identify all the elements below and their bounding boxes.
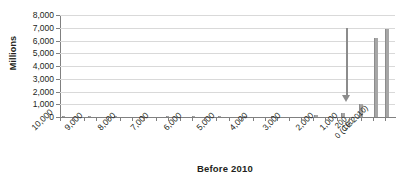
x-axis-tick-mark	[96, 118, 97, 121]
y-axis-tick-mark	[56, 66, 60, 67]
x-axis-tick-mark	[60, 118, 61, 121]
x-axis-tick-mark	[277, 118, 278, 121]
y-axis-tick-mark	[56, 79, 60, 80]
x-axis-tick-mark	[253, 118, 254, 121]
x-axis-tick-mark	[373, 118, 374, 121]
x-axis-tick-mark	[132, 118, 133, 121]
y-axis-tick-mark	[56, 15, 60, 16]
bar-chart: Millions 01,0002,0003,0004,0005,0006,000…	[0, 0, 402, 185]
x-axis-tick-mark	[216, 118, 217, 121]
x-axis-tick-label: 9,000	[63, 111, 84, 132]
x-axis-tick-mark	[361, 118, 362, 121]
x-axis-tick-mark	[156, 118, 157, 121]
x-axis-tick-mark	[168, 118, 169, 121]
chart-title: Before 2010	[0, 163, 402, 174]
x-axis-tick-mark	[84, 118, 85, 121]
x-axis-tick-mark	[192, 118, 193, 121]
x-axis-tick-label: 6,000	[162, 111, 183, 132]
x-axis-tick-mark	[229, 118, 230, 121]
x-axis-tick-mark	[301, 118, 302, 121]
x-axis-tick-label: 3,000	[261, 111, 282, 132]
y-axis-tick-mark	[56, 41, 60, 42]
y-axis-tick-mark	[56, 28, 60, 29]
x-axis-tick-label: 5,000	[195, 111, 216, 132]
y-axis-tick-mark	[56, 104, 60, 105]
x-axis-tick-mark	[120, 118, 121, 121]
chart-title-text: Before 2010	[197, 163, 253, 174]
x-axis-tick-mark	[108, 118, 109, 121]
x-axis-tick-mark	[204, 118, 205, 121]
x-axis-tick-label: 2,000	[294, 111, 315, 132]
x-axis-tick-mark	[349, 118, 350, 121]
x-axis-tick-mark	[289, 118, 290, 121]
x-axis-tick-mark	[144, 118, 145, 121]
x-axis-tick-mark	[313, 118, 314, 121]
x-axis-tick-labels: 10,0009,0008,0007,0006,0005,0004,0003,00…	[0, 0, 402, 185]
x-axis-tick-mark	[180, 118, 181, 121]
x-axis-tick-label: 10,000	[30, 108, 55, 133]
x-axis-tick-mark	[72, 118, 73, 121]
x-axis-tick-label: 7,000	[129, 111, 150, 132]
x-axis-tick-mark	[385, 118, 386, 121]
x-axis-tick-mark	[265, 118, 266, 121]
x-axis-tick-mark	[325, 118, 326, 121]
x-axis-tick-label: 4,000	[228, 111, 249, 132]
x-axis-tick-mark	[337, 118, 338, 121]
x-axis-tick-label: 8,000	[96, 111, 117, 132]
y-axis-tick-mark	[56, 92, 60, 93]
x-axis-tick-mark	[241, 118, 242, 121]
y-axis-tick-mark	[56, 53, 60, 54]
